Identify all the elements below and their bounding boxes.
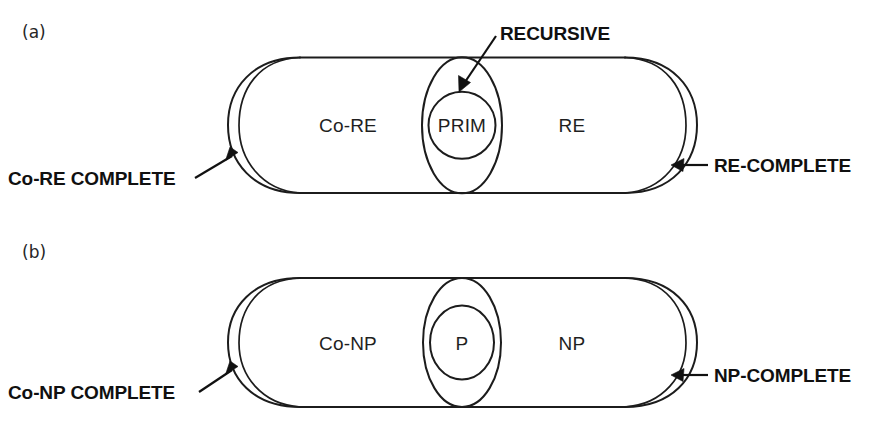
panel-b-label-p: P	[456, 333, 469, 354]
panel-b: (b) Co-NP P NP Co-NP COMPLETE	[8, 242, 851, 407]
panel-a-callout-recursive-label: RECURSIVE	[500, 23, 610, 44]
panel-a-tag: (a)	[22, 22, 46, 42]
panel-a-label-co-re: Co-RE	[319, 115, 377, 136]
panel-b-callout-conp-complete-arrowhead	[226, 361, 239, 375]
panel-a-right-crescent-arc	[625, 58, 686, 194]
venn-diagram-figure: (a) Co-RE PRIM RE RECURSIVE	[0, 0, 875, 436]
figure-root: (a) Co-RE PRIM RE RECURSIVE	[0, 0, 875, 436]
panel-a: (a) Co-RE PRIM RE RECURSIVE	[8, 22, 851, 193]
panel-b-label-np: NP	[559, 333, 586, 354]
panel-b-left-crescent-arc	[239, 278, 300, 407]
panel-a-label-prim: PRIM	[438, 115, 486, 136]
panel-a-callout-core-complete-label: Co-RE COMPLETE	[8, 168, 176, 189]
panel-a-callout-re-complete-label: RE-COMPLETE	[714, 155, 851, 176]
panel-a-label-re: RE	[559, 115, 586, 136]
panel-b-label-co-np: Co-NP	[319, 333, 377, 354]
panel-b-right-crescent-arc	[625, 278, 686, 407]
panel-b-callout-np-complete-arrowhead	[671, 369, 684, 382]
panel-b-tag: (b)	[22, 242, 46, 262]
panel-b-callout-conp-complete-label: Co-NP COMPLETE	[8, 382, 175, 403]
panel-a-left-crescent-arc	[239, 58, 300, 194]
panel-b-callout-np-complete-label: NP-COMPLETE	[714, 365, 851, 386]
